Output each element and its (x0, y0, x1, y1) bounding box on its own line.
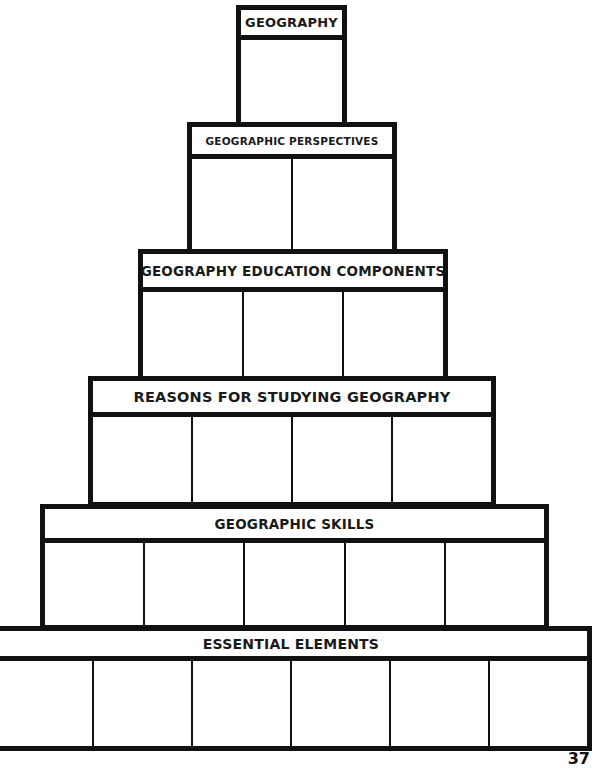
answer-cell[interactable] (346, 543, 446, 625)
page-number: 37 (568, 749, 590, 768)
tier-header: REASONS FOR STUDYING GEOGRAPHY (93, 381, 491, 417)
answer-cell[interactable] (45, 543, 145, 625)
answer-cell[interactable] (94, 661, 193, 746)
tier-header: GEOGRAPHIC PERSPECTIVES (192, 127, 392, 159)
tier-body (241, 40, 342, 122)
tier-body (0, 661, 587, 746)
tier-header: ESSENTIAL ELEMENTS (0, 631, 587, 661)
tier-header: GEOGRAPHY EDUCATION COMPONENTS (143, 254, 443, 292)
tier-title: GEOGRAPHIC PERSPECTIVES (206, 135, 379, 147)
answer-cell[interactable] (490, 661, 587, 746)
answer-cell[interactable] (344, 292, 443, 376)
answer-cell[interactable] (293, 417, 393, 502)
tier-reasons-for-studying-geography: REASONS FOR STUDYING GEOGRAPHY (88, 376, 496, 507)
answer-cell[interactable] (143, 292, 244, 376)
answer-cell[interactable] (145, 543, 245, 625)
answer-cell[interactable] (446, 543, 544, 625)
answer-cell[interactable] (391, 661, 490, 746)
tier-geographic-perspectives: GEOGRAPHIC PERSPECTIVES (187, 122, 397, 254)
answer-cell[interactable] (245, 543, 345, 625)
tier-body (192, 159, 392, 249)
tier-geography: GEOGRAPHY (236, 5, 347, 127)
tier-title: REASONS FOR STUDYING GEOGRAPHY (134, 389, 451, 405)
answer-cell[interactable] (292, 661, 391, 746)
tier-title: ESSENTIAL ELEMENTS (203, 636, 379, 652)
answer-cell[interactable] (393, 417, 491, 502)
answer-cell[interactable] (0, 661, 94, 746)
answer-cell[interactable] (293, 159, 392, 249)
tier-header: GEOGRAPHIC SKILLS (45, 509, 544, 543)
tier-title: GEOGRAPHY (245, 15, 338, 30)
tier-essential-elements: ESSENTIAL ELEMENTS (0, 626, 592, 751)
tier-header: GEOGRAPHY (241, 10, 342, 40)
answer-cell[interactable] (192, 159, 293, 249)
tier-body (143, 292, 443, 376)
answer-cell[interactable] (93, 417, 193, 502)
answer-cell[interactable] (193, 661, 292, 746)
tier-body (45, 543, 544, 625)
answer-cell[interactable] (244, 292, 345, 376)
tier-body (93, 417, 491, 502)
tier-geographic-skills: GEOGRAPHIC SKILLS (40, 504, 549, 630)
tier-geography-education-components: GEOGRAPHY EDUCATION COMPONENTS (138, 249, 448, 381)
tier-title: GEOGRAPHIC SKILLS (214, 516, 374, 532)
answer-cell[interactable] (193, 417, 293, 502)
tier-title: GEOGRAPHY EDUCATION COMPONENTS (141, 263, 446, 279)
answer-cell[interactable] (241, 40, 342, 122)
